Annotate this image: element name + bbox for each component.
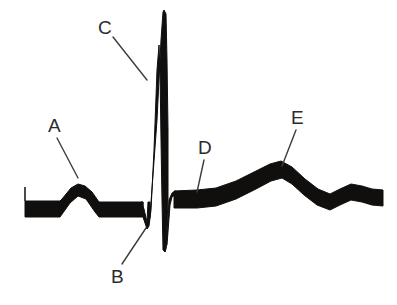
label-e: E	[291, 108, 304, 127]
r-wave-spike	[147, 10, 168, 252]
ecg-waveform-trace	[25, 10, 383, 252]
st-segment-t-wave-u-wave	[174, 161, 383, 210]
leader-line-a	[57, 138, 78, 178]
leader-line-e	[282, 130, 296, 166]
label-leader-lines	[57, 37, 296, 264]
label-b: B	[111, 267, 124, 286]
label-c: C	[98, 18, 112, 37]
label-a: A	[48, 116, 61, 135]
p-wave-and-left-baseline	[25, 184, 143, 217]
leader-line-d	[197, 160, 204, 192]
leader-line-b	[122, 228, 146, 264]
label-d: D	[198, 138, 212, 157]
ecg-waveform-figure: A B C D E	[0, 0, 397, 305]
leader-line-c	[113, 37, 147, 80]
